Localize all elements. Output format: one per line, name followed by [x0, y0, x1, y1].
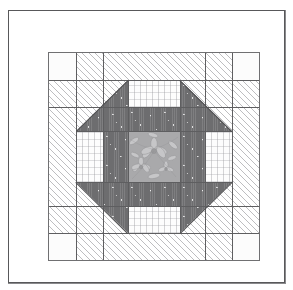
seam-v-3: [128, 80, 129, 233]
center-floral-square: [128, 131, 180, 182]
seam-v-1: [76, 53, 77, 260]
quilt-block: [48, 52, 260, 261]
dark-bar-right: [180, 131, 205, 182]
edge-rect-bottom: [128, 206, 180, 233]
diagram-canvas: [0, 0, 293, 290]
seam-h-1: [49, 80, 259, 81]
seam-v-5: [205, 53, 206, 260]
corner-hatch-bottom: [76, 233, 232, 260]
dark-bar-top: [128, 107, 180, 131]
corner-hatch-right: [232, 80, 259, 233]
seam-h-3: [76, 131, 232, 132]
seam-h-5: [49, 206, 259, 207]
edge-rect-right: [205, 131, 232, 182]
dark-bar-bottom: [128, 182, 180, 206]
seam-h-6: [49, 233, 259, 234]
corner-hatch-left: [49, 80, 76, 233]
seam-v-2: [103, 53, 104, 260]
corner-hatch-top-left: [76, 53, 232, 80]
edge-rect-left: [76, 131, 103, 182]
seam-h-4: [76, 182, 232, 183]
floral-print-motif: [128, 131, 180, 182]
seam-v-6: [232, 53, 233, 260]
seam-h-2: [49, 107, 259, 108]
seam-v-4: [180, 80, 181, 233]
edge-rect-top: [128, 80, 180, 107]
outer-border-frame: [8, 10, 285, 283]
dark-bar-left: [103, 131, 128, 182]
